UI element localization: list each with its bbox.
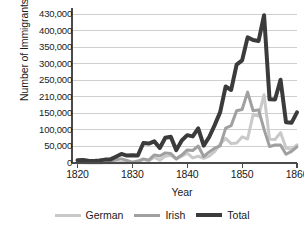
legend-swatch-irish-icon [134,214,160,217]
legend-label: German [86,209,124,221]
x-tick-label: 1820 [57,168,97,180]
x-tick-label: 1860 [277,168,304,180]
y-tick-label: 0 [16,158,72,168]
legend-item-irish[interactable]: Irish [134,209,185,221]
legend-item-german[interactable]: German [55,209,124,221]
legend-swatch-german-icon [55,214,81,217]
legend-swatch-total-icon [196,213,222,217]
y-tick-label: 50,000 [16,141,72,151]
x-tick-label: 1850 [222,168,262,180]
y-tick-label: 400,000 [16,26,72,36]
y-tick-label: 350,000 [16,42,72,52]
y-tick-label: 430,000 [16,9,72,19]
legend-label: Irish [165,209,185,221]
y-tick-label: 250,000 [16,75,72,85]
immigration-line-chart: Number of Immigrants 050,000100,000150,0… [0,0,304,230]
chart-legend: GermanIrishTotal [0,206,304,224]
y-tick-label: 300,000 [16,59,72,69]
y-tick-label: 150,000 [16,108,72,118]
x-axis-title: Year [60,186,304,198]
legend-label: Total [227,209,249,221]
y-tick-label: 210,000 [16,92,72,102]
series-line-total [77,15,297,161]
y-tick-label: 100,000 [16,125,72,135]
legend-item-total[interactable]: Total [196,209,249,221]
x-tick-label: 1830 [112,168,152,180]
x-tick-label: 1840 [167,168,207,180]
